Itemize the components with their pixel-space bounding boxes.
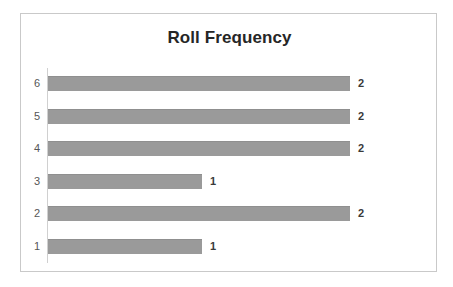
bar-track-4: 2 xyxy=(47,141,432,156)
category-label-1: 1 xyxy=(18,237,40,255)
chart-title: Roll Frequency xyxy=(21,28,438,48)
bar-track-6: 2 xyxy=(47,76,432,91)
table-row: 3 1 xyxy=(47,166,432,199)
bar-4[interactable] xyxy=(48,141,350,156)
bar-value-label-5: 2 xyxy=(358,108,364,125)
table-row: 4 2 xyxy=(47,133,432,166)
bar-2[interactable] xyxy=(48,206,350,221)
table-row: 2 2 xyxy=(47,198,432,231)
category-label-4: 4 xyxy=(18,139,40,157)
bar-1[interactable] xyxy=(48,239,202,254)
bar-value-label-4: 2 xyxy=(358,140,364,157)
table-row: 6 2 xyxy=(47,68,432,101)
bar-value-label-2: 2 xyxy=(358,205,364,222)
bar-value-label-1: 1 xyxy=(210,238,216,255)
bar-value-label-3: 1 xyxy=(210,173,216,190)
category-label-3: 3 xyxy=(18,172,40,190)
bar-track-2: 2 xyxy=(47,206,432,221)
bar-6[interactable] xyxy=(48,76,350,91)
category-label-5: 5 xyxy=(18,107,40,125)
table-row: 1 1 xyxy=(47,231,432,264)
category-label-2: 2 xyxy=(18,204,40,222)
bar-track-1: 1 xyxy=(47,239,432,254)
bar-value-label-6: 2 xyxy=(358,75,364,92)
chart-canvas: Roll Frequency 6 2 5 2 4 xyxy=(0,0,453,287)
chart-frame: Roll Frequency 6 2 5 2 4 xyxy=(20,13,437,272)
bar-track-5: 2 xyxy=(47,109,432,124)
bar-3[interactable] xyxy=(48,174,202,189)
category-label-6: 6 xyxy=(18,74,40,92)
bar-track-3: 1 xyxy=(47,174,432,189)
plot-area: 6 2 5 2 4 2 xyxy=(47,68,432,263)
bar-5[interactable] xyxy=(48,109,350,124)
table-row: 5 2 xyxy=(47,101,432,134)
